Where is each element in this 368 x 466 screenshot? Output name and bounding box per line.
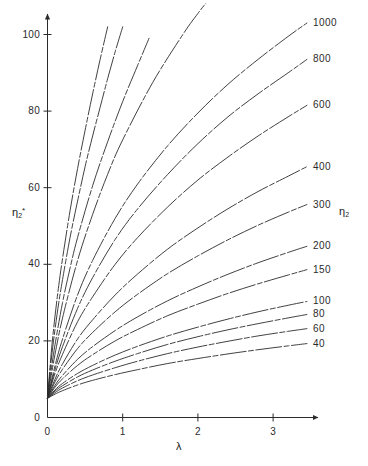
curve-label-200: 200 (313, 240, 331, 251)
plot-canvas (0, 0, 368, 466)
curve-800 (48, 59, 307, 398)
curve-label-800: 800 (313, 53, 331, 64)
curve-label-1000: 1000 (313, 17, 337, 28)
curve-label-40: 40 (313, 338, 325, 349)
right-axis-title-text: η2 (339, 205, 349, 217)
curve-label-600: 600 (313, 99, 331, 110)
curve-label-80: 80 (313, 308, 325, 319)
curve-400 (48, 167, 307, 399)
x-tick-label-1: 1 (113, 426, 133, 437)
curve-600 (48, 105, 307, 398)
x-axis-title: λ (176, 440, 182, 452)
curve-label-60: 60 (313, 323, 325, 334)
y-tick-label-80: 80 (10, 105, 40, 116)
y-axis-title-text: η2* (12, 206, 25, 218)
x-tick-label-2: 2 (188, 426, 208, 437)
y-axis-title: η2* (12, 206, 25, 219)
curve-label-400: 400 (313, 161, 331, 172)
y-tick-label-0: 0 (10, 412, 40, 423)
curve-200 (48, 246, 307, 398)
x-tick-label-0: 0 (38, 426, 58, 437)
curve-label-100: 100 (313, 295, 331, 306)
axes-group (48, 14, 319, 418)
y-tick-label-60: 60 (10, 182, 40, 193)
axis-ticks (44, 35, 274, 422)
data-curves (48, 4, 307, 398)
x-axis-title-text: λ (176, 440, 182, 452)
curve-1500 (48, 4, 206, 398)
y-tick-label-40: 40 (10, 258, 40, 269)
x-tick-label-3: 3 (263, 426, 283, 437)
curve-100 (48, 301, 307, 398)
curve-2000 (48, 38, 150, 398)
y-tick-label-100: 100 (10, 29, 40, 40)
curve-label-150: 150 (313, 264, 331, 275)
chart-figure: 204060801000 0123 4000300020001500 10008… (0, 0, 368, 466)
y-tick-label-20: 20 (10, 335, 40, 346)
right-axis-title: η2 (339, 205, 349, 218)
curve-label-300: 300 (313, 199, 331, 210)
